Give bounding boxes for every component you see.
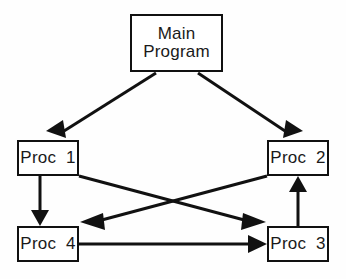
node-proc-2-label: Proc 2 <box>270 149 325 167</box>
edge-main-to-proc1 <box>46 73 156 138</box>
arrowhead-icon <box>31 210 49 226</box>
node-proc-1[interactable]: Proc 1 <box>17 140 79 176</box>
edge-main-to-proc2 <box>198 73 303 138</box>
node-proc-1-label: Proc 1 <box>20 149 75 167</box>
node-main-program-label-line1: Main <box>158 25 196 43</box>
node-proc-4[interactable]: Proc 4 <box>17 226 79 262</box>
node-main-program-label-line2: Program <box>143 43 210 61</box>
edge-proc1-to-proc4 <box>31 176 49 226</box>
arrowhead-icon <box>248 235 267 253</box>
structure-chart-diagram: Main Program Proc 1 Proc 2 Proc 4 Proc 3 <box>0 0 346 279</box>
arrowhead-icon <box>283 120 303 138</box>
edge-proc3-to-proc2 <box>289 176 307 226</box>
node-main-program[interactable]: Main Program <box>130 14 223 72</box>
arrowhead-icon <box>289 176 307 192</box>
arrowhead-icon <box>80 213 105 230</box>
node-proc-3[interactable]: Proc 3 <box>267 226 329 262</box>
node-proc-3-label: Proc 3 <box>270 235 325 253</box>
node-proc-4-label: Proc 4 <box>20 235 75 253</box>
arrowhead-icon <box>46 120 66 138</box>
arrowhead-icon <box>241 213 266 230</box>
edge-proc4-to-proc3 <box>79 235 267 253</box>
node-proc-2[interactable]: Proc 2 <box>267 140 329 176</box>
